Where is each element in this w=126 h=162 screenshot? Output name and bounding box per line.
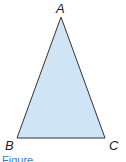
figure-caption: Figure — [2, 154, 33, 162]
triangle-diagram: A B C — [0, 0, 126, 162]
vertex-label-a: A — [55, 1, 65, 16]
vertex-label-c: C — [109, 138, 119, 153]
triangle-abc — [17, 17, 105, 138]
vertex-label-b: B — [5, 138, 14, 153]
